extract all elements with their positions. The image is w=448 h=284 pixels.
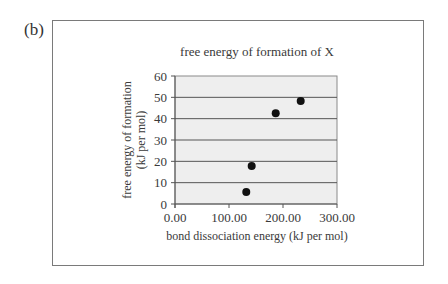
data-point (242, 188, 250, 196)
scatter-chart: free energy of formation of X 0102030405… (0, 0, 448, 284)
y-tick-label: 10 (154, 175, 167, 190)
x-tick-label: 0.00 (164, 210, 187, 225)
x-tick-label: 100.00 (211, 210, 247, 225)
plot-area: 01020304050600.00100.00200.00300.00 (154, 69, 355, 226)
y-tick-label: 40 (154, 111, 167, 126)
data-point (272, 109, 280, 117)
y-tick-label: 30 (154, 133, 167, 148)
x-tick-label: 300.00 (319, 210, 355, 225)
chart-title: free energy of formation of X (180, 44, 335, 59)
x-axis-label: bond dissociation energy (kJ per mol) (166, 229, 347, 243)
y-tick-label: 60 (154, 69, 167, 84)
y-axis-label-units: (kJ per mol) (134, 111, 148, 170)
data-point (248, 162, 256, 170)
y-tick-label: 20 (154, 154, 167, 169)
y-axis-label: free energy of formation (120, 81, 134, 198)
data-point (297, 97, 305, 105)
x-tick-label: 200.00 (265, 210, 301, 225)
y-tick-label: 50 (154, 90, 167, 105)
